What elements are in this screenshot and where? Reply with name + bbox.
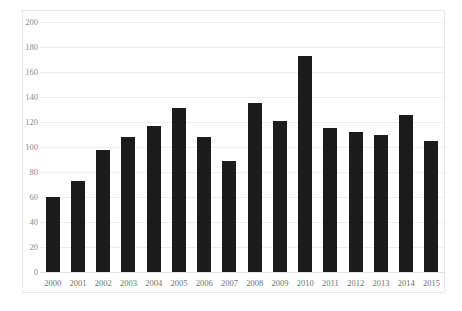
bar xyxy=(222,161,236,272)
bar xyxy=(46,197,60,272)
y-tick-label: 160 xyxy=(4,68,38,77)
y-tick-label: 120 xyxy=(4,118,38,127)
y-tick-label: 0 xyxy=(4,268,38,277)
y-tick-label: 60 xyxy=(4,193,38,202)
bar-chart-figure: 020406080100120140160180200 200020012002… xyxy=(0,0,462,311)
y-tick-label: 140 xyxy=(4,93,38,102)
bar xyxy=(323,128,337,272)
bar xyxy=(273,121,287,272)
y-tick-label: 80 xyxy=(4,168,38,177)
bars-layer xyxy=(40,22,444,272)
y-tick-label: 20 xyxy=(4,243,38,252)
y-tick-label: 200 xyxy=(4,18,38,27)
bar xyxy=(197,137,211,272)
bar xyxy=(71,181,85,272)
bar xyxy=(172,108,186,272)
bar xyxy=(349,132,363,272)
x-tick-label: 2015 xyxy=(414,279,448,288)
bar xyxy=(298,56,312,272)
bar xyxy=(374,135,388,273)
y-axis: 020406080100120140160180200 xyxy=(0,22,38,272)
y-tick-label: 100 xyxy=(4,143,38,152)
bar xyxy=(96,150,110,273)
bar xyxy=(399,115,413,273)
y-tick-label: 40 xyxy=(4,218,38,227)
bar xyxy=(147,126,161,272)
bar xyxy=(121,137,135,272)
bar xyxy=(424,141,438,272)
x-axis: 2000200120022003200420052006200720082009… xyxy=(40,273,444,293)
bar xyxy=(248,103,262,272)
y-tick-label: 180 xyxy=(4,43,38,52)
plot-area xyxy=(40,22,444,272)
